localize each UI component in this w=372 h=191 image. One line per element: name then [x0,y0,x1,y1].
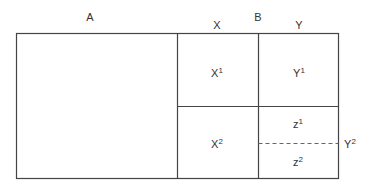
label-y2: Y2 [344,138,356,150]
label-z2: z2 [293,156,303,168]
label-x2: X2 [211,138,223,150]
label-z1: z1 [293,118,303,130]
partition-diagram [0,0,372,191]
label-a: A [86,11,93,23]
label-y: Y [295,19,302,31]
label-x: X [213,19,220,31]
label-b: B [254,11,261,23]
label-x1: X1 [211,67,223,79]
label-y1: Y1 [293,67,305,79]
